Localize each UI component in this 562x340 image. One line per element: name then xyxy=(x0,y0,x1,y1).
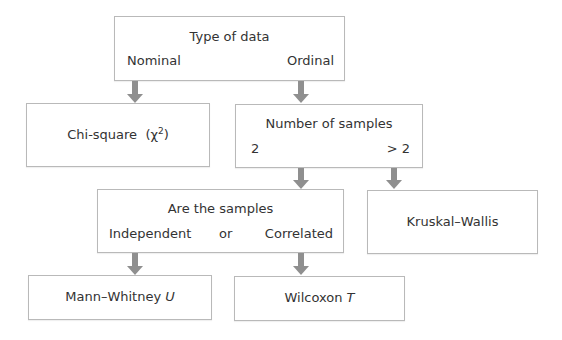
are-samples-title: Are the samples xyxy=(98,201,343,217)
arrow-down-icon xyxy=(127,81,143,103)
arrow-down-icon xyxy=(293,253,309,275)
type-of-data-title: Type of data xyxy=(115,29,344,45)
arrow-down-icon xyxy=(293,81,309,103)
or-connector: or xyxy=(219,226,232,242)
number-of-samples-title: Number of samples xyxy=(236,116,422,132)
chi-square-label: Chi-square (χ2) xyxy=(27,127,209,143)
more-than-two-samples-option: > 2 xyxy=(387,141,410,157)
mann-whitney-label: Mann–Whitney U xyxy=(29,289,211,305)
chi-square-symbol: (χ2) xyxy=(145,127,168,142)
arrow-down-icon xyxy=(386,168,402,189)
two-samples-option: 2 xyxy=(251,141,259,157)
wilcoxon-box: Wilcoxon T xyxy=(234,276,405,321)
nominal-option: Nominal xyxy=(127,53,181,69)
wilcoxon-variable: T xyxy=(347,290,355,305)
wilcoxon-label: Wilcoxon T xyxy=(235,290,404,306)
correlated-option: Correlated xyxy=(265,226,333,242)
number-of-samples-box: Number of samples 2 > 2 xyxy=(235,104,423,168)
mann-whitney-variable: U xyxy=(165,289,175,304)
are-samples-box: Are the samples Independent or Correlate… xyxy=(97,189,344,253)
independent-option: Independent xyxy=(109,226,191,242)
type-of-data-box: Type of data Nominal Ordinal xyxy=(114,16,345,81)
chi-square-box: Chi-square (χ2) xyxy=(26,103,210,167)
arrow-down-icon xyxy=(293,168,309,189)
kruskal-wallis-label: Kruskal–Wallis xyxy=(368,214,537,230)
kruskal-wallis-box: Kruskal–Wallis xyxy=(367,190,538,254)
ordinal-option: Ordinal xyxy=(287,53,334,69)
arrow-down-icon xyxy=(127,253,143,275)
mann-whitney-box: Mann–Whitney U xyxy=(28,275,212,320)
